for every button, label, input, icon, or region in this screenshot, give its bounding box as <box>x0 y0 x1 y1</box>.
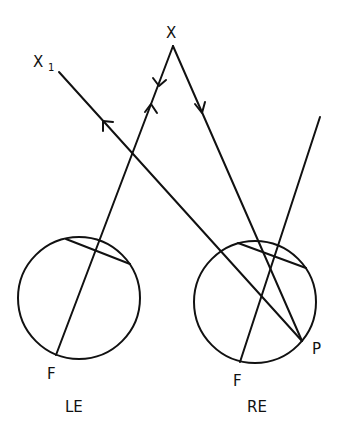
arrow-up-icon <box>145 104 157 113</box>
left-eye-circle <box>18 237 140 359</box>
label-left-eye: LE <box>65 398 83 416</box>
label-x1: X <box>33 53 43 71</box>
binocular-vision-diagram: X X 1 F F P LE RE <box>0 0 340 432</box>
label-x: X <box>166 24 176 42</box>
label-left-fovea: F <box>47 365 56 383</box>
right-eye-circle <box>194 241 316 363</box>
label-right-fovea: F <box>233 372 242 390</box>
ray-x-to-p <box>173 46 302 341</box>
label-x1-subscript: 1 <box>48 62 54 73</box>
label-point-p: P <box>312 340 321 358</box>
label-right-eye: RE <box>247 398 267 416</box>
ray-x-to-left-fovea <box>56 46 173 355</box>
ray-right-fovea-projection <box>240 117 320 362</box>
ray-p-to-x1 <box>59 72 302 341</box>
